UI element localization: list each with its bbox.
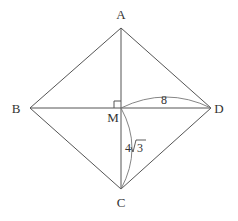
side-dc [121, 108, 211, 189]
measure-mc-coeff: 4 [125, 141, 131, 155]
label-b: B [12, 101, 21, 116]
right-angle-marker [114, 101, 121, 108]
side-ab [30, 28, 121, 108]
measure-mc-radicand: 3 [137, 141, 143, 155]
measure-mc: 4 3 [125, 140, 146, 155]
rhombus-diagram: A B M D C 8 4 3 [0, 0, 238, 221]
label-m: M [107, 110, 119, 125]
label-c: C [117, 195, 126, 210]
label-a: A [116, 7, 126, 22]
label-d: D [214, 101, 223, 116]
measure-md: 8 [161, 93, 167, 107]
